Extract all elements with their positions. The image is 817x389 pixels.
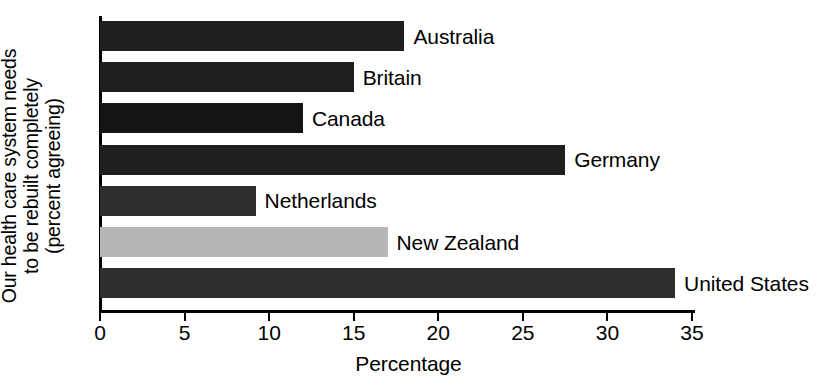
bar-row: Canada	[100, 103, 385, 133]
bar-label: Australia	[404, 26, 494, 47]
bar-label: United States	[675, 273, 809, 294]
plot-area: AustraliaBritainCanadaGermanyNetherlands…	[100, 18, 692, 310]
bar-row: Germany	[100, 145, 660, 175]
x-axis-tick	[437, 312, 439, 321]
y-axis-title-line-2: to be rebuilt completely	[21, 78, 43, 274]
bar-row: United States	[100, 268, 809, 298]
y-axis-title-line-3: (percent agreeing)	[43, 98, 65, 254]
x-axis-tick	[691, 312, 693, 321]
x-axis-tick-label: 30	[596, 322, 619, 343]
x-axis-tick-label: 0	[94, 322, 106, 343]
bar-row: Britain	[100, 62, 422, 92]
bar-label: Germany	[565, 149, 660, 170]
bar-chart: Our health care system needs to be rebui…	[0, 0, 817, 389]
bar	[100, 268, 675, 298]
x-axis-tick-label: 10	[257, 322, 280, 343]
bar	[100, 145, 565, 175]
bar	[100, 186, 256, 216]
x-axis-tick-label: 25	[511, 322, 534, 343]
x-axis-title: Percentage	[0, 352, 817, 376]
bar	[100, 103, 303, 133]
y-axis-title-line-1: Our health care system needs	[0, 49, 21, 304]
x-axis-tick-label: 35	[680, 322, 703, 343]
bar-row: Netherlands	[100, 186, 377, 216]
y-axis-title: Our health care system needs to be rebui…	[2, 26, 62, 326]
x-axis-tick	[353, 312, 355, 321]
bar-row: New Zealand	[100, 227, 519, 257]
bar-label: Netherlands	[256, 190, 377, 211]
bar	[100, 21, 404, 51]
x-axis-tick	[268, 312, 270, 321]
x-axis-tick-label: 20	[427, 322, 450, 343]
bar-label: Canada	[303, 108, 385, 129]
x-axis-tick	[99, 312, 101, 321]
x-axis-tick-label: 15	[342, 322, 365, 343]
x-axis-tick-label: 5	[179, 322, 191, 343]
x-axis-tick	[606, 312, 608, 321]
x-axis-tick	[184, 312, 186, 321]
bar-label: New Zealand	[388, 232, 520, 253]
x-axis-tick	[522, 312, 524, 321]
bar	[100, 62, 354, 92]
bar	[100, 227, 388, 257]
bar-label: Britain	[354, 67, 422, 88]
bar-row: Australia	[100, 21, 494, 51]
